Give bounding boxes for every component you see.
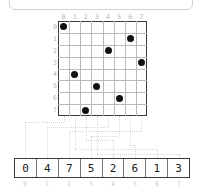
permutation-diagram: 01234567 01234567 04752613 01234567 xyxy=(0,0,203,193)
grid-row-header: 4 xyxy=(48,70,57,78)
wire-segment-vertical xyxy=(119,116,120,136)
grid-row-header: 6 xyxy=(48,94,57,102)
wire-segment-vertical xyxy=(47,127,48,159)
grid-line-vertical xyxy=(114,21,115,116)
wire-segment-vertical xyxy=(64,116,65,122)
grid-column-header: 0 xyxy=(58,13,69,21)
wire-segment-horizontal xyxy=(97,154,179,155)
grid-line-horizontal xyxy=(58,92,147,93)
output-bar-cell[interactable]: 5 xyxy=(81,159,103,177)
grid-line-vertical xyxy=(136,21,137,116)
wire-segment-vertical xyxy=(91,136,92,159)
wire-segment-vertical xyxy=(141,116,142,131)
output-bar-index-label: 1 xyxy=(36,180,58,188)
output-bar-index-label: 5 xyxy=(124,180,146,188)
grid-line-horizontal xyxy=(58,69,147,70)
output-bar-cell[interactable]: 2 xyxy=(103,159,125,177)
permutation-grid[interactable] xyxy=(58,21,147,116)
output-bar-index-label: 4 xyxy=(102,180,124,188)
grid-line-horizontal xyxy=(58,80,147,81)
wire-segment-vertical xyxy=(25,122,26,158)
grid-column-header: 4 xyxy=(103,13,114,21)
output-bar-cell[interactable]: 0 xyxy=(15,159,37,177)
wire-segment-horizontal xyxy=(47,127,108,128)
grid-column-header: 5 xyxy=(114,13,125,21)
grid-line-vertical xyxy=(125,21,126,116)
grid-dot[interactable] xyxy=(82,107,89,114)
wire-segment-horizontal xyxy=(86,140,113,141)
wire-segment-horizontal xyxy=(91,136,119,137)
output-bar-index-label: 0 xyxy=(14,180,36,188)
output-bar-index-label: 6 xyxy=(146,180,168,188)
wire-segment-vertical xyxy=(130,116,131,145)
wire-segment-vertical xyxy=(69,131,70,158)
grid-row-header: 7 xyxy=(48,106,57,114)
grid-row-header: 3 xyxy=(48,59,57,67)
wire-segment-vertical xyxy=(97,116,98,154)
output-bar-cell[interactable]: 6 xyxy=(124,159,146,177)
wire-segment-vertical xyxy=(75,116,76,149)
output-bar-cell[interactable]: 7 xyxy=(59,159,81,177)
wire-segment-vertical xyxy=(86,116,87,140)
output-bar-index-label: 7 xyxy=(168,180,190,188)
grid-row-header: 5 xyxy=(48,82,57,90)
top-panel xyxy=(9,0,193,10)
grid-column-header: 3 xyxy=(91,13,102,21)
output-bar-index-label: 3 xyxy=(80,180,102,188)
grid-row-header: 0 xyxy=(48,23,57,31)
wire-segment-horizontal xyxy=(75,149,157,150)
grid-row-header: 2 xyxy=(48,47,57,55)
grid-dot[interactable] xyxy=(116,95,123,102)
grid-column-header: 7 xyxy=(136,13,147,21)
wire-segment-vertical xyxy=(108,116,109,127)
output-bar-cell[interactable]: 3 xyxy=(168,159,189,177)
grid-column-header: 2 xyxy=(80,13,91,21)
output-bar-cell[interactable]: 1 xyxy=(146,159,168,177)
grid-dot[interactable] xyxy=(105,47,112,54)
output-bar-index-label: 2 xyxy=(58,180,80,188)
grid-dot[interactable] xyxy=(138,59,145,66)
output-bar-cell[interactable]: 4 xyxy=(37,159,59,177)
wire-segment-horizontal xyxy=(25,122,64,123)
grid-column-header: 1 xyxy=(69,13,80,21)
wire-segment-vertical xyxy=(135,145,136,159)
grid-column-header: 6 xyxy=(125,13,136,21)
grid-line-horizontal xyxy=(58,104,147,105)
output-bar[interactable]: 04752613 xyxy=(14,158,190,178)
grid-row-header: 1 xyxy=(48,35,57,43)
